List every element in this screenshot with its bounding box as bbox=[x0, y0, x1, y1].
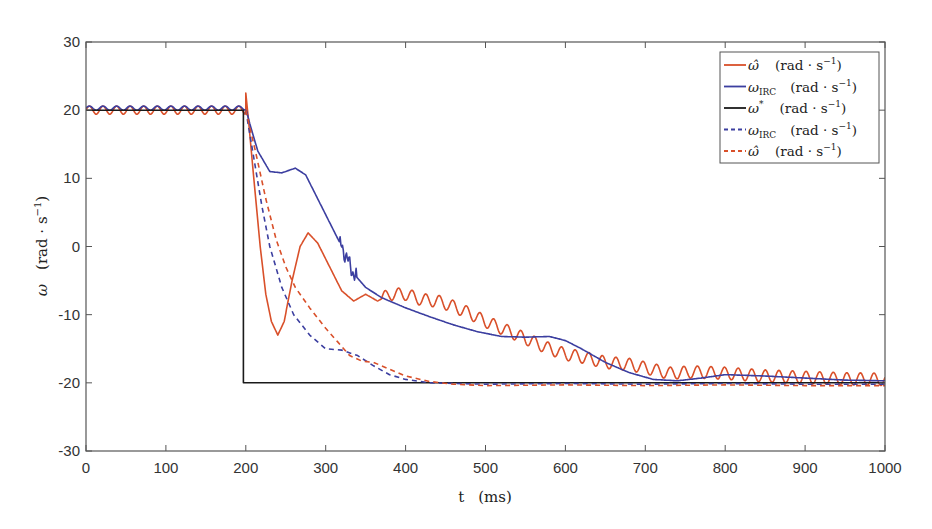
y-tick-label: 0 bbox=[72, 238, 80, 255]
x-tick-label: 400 bbox=[393, 459, 418, 476]
y-tick-label: -30 bbox=[58, 442, 80, 459]
y-tick-label: 30 bbox=[63, 33, 80, 50]
y-tick-label: 20 bbox=[63, 101, 80, 118]
x-tick-label: 700 bbox=[633, 459, 658, 476]
y-tick-label: -20 bbox=[58, 374, 80, 391]
x-tick-label: 100 bbox=[153, 459, 178, 476]
x-tick-label: 200 bbox=[233, 459, 258, 476]
x-tick-label: 600 bbox=[553, 459, 578, 476]
y-tick-label: 10 bbox=[63, 169, 80, 186]
legend: ω̂(rad · s−1)ωIRC(rad · s−1)ω*(rad · s−1… bbox=[720, 52, 879, 163]
line-chart: 01002003004005006007008009001000-30-20-1… bbox=[0, 0, 932, 529]
x-tick-label: 0 bbox=[82, 459, 90, 476]
x-tick-label: 800 bbox=[713, 459, 738, 476]
x-tick-label: 300 bbox=[313, 459, 338, 476]
x-tick-label: 900 bbox=[793, 459, 818, 476]
x-tick-label: 1000 bbox=[868, 459, 901, 476]
y-tick-label: -10 bbox=[58, 306, 80, 323]
x-tick-label: 500 bbox=[473, 459, 498, 476]
